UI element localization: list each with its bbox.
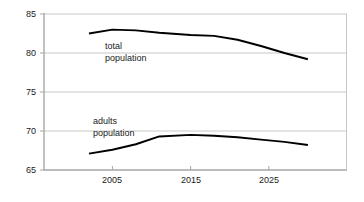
y-axis-label-85: 85 (14, 9, 36, 19)
y-axis-label-65: 65 (14, 165, 36, 175)
plot-area (0, 0, 364, 202)
series-annotation-total-population: total population (105, 40, 147, 64)
x-axis-label-2025: 2025 (249, 175, 289, 185)
series-annotation-adults-population: adults population (93, 115, 135, 139)
x-axis-label-2015: 2015 (171, 175, 211, 185)
x-axis-label-2005: 2005 (92, 175, 132, 185)
y-axis-label-75: 75 (14, 87, 36, 97)
series-annotation-total-line2: population (105, 52, 147, 64)
series-annotation-adults-line1: adults (93, 115, 135, 127)
line-chart-figure: 85 80 75 70 65 2005 2015 2025 total popu… (0, 0, 364, 202)
series-annotation-adults-line2: population (93, 127, 135, 139)
y-axis-label-80: 80 (14, 48, 36, 58)
series-annotation-total-line1: total (105, 40, 147, 52)
y-axis-label-70: 70 (14, 126, 36, 136)
